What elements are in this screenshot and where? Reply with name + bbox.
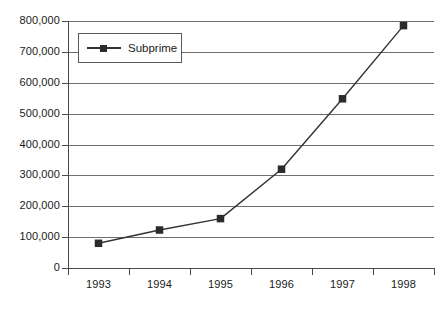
data-point-marker [217, 215, 225, 223]
data-point-marker [278, 165, 286, 173]
legend-marker-icon [87, 42, 121, 54]
legend-entry-label: Subprime [128, 42, 177, 54]
series-layer [0, 0, 448, 312]
chart-legend: Subprime [78, 33, 182, 63]
chart-figure: 0100,000200,000300,000400,000500,000600,… [0, 0, 448, 312]
legend-entry-subprime: Subprime [79, 34, 181, 62]
data-point-marker [400, 22, 408, 30]
data-point-marker [156, 226, 164, 234]
data-point-marker [95, 240, 103, 248]
data-point-marker [339, 95, 347, 103]
